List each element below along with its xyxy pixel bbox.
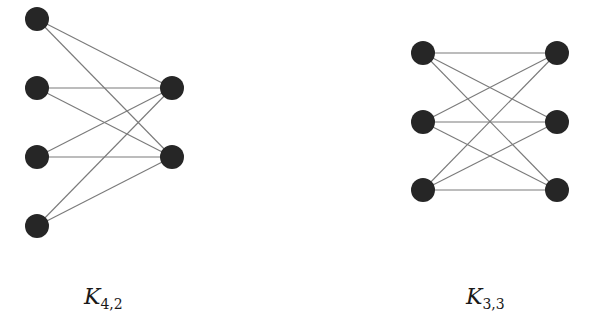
edges-layer	[37, 19, 557, 226]
vertex	[545, 41, 569, 65]
vertex	[160, 145, 184, 169]
edge	[37, 19, 172, 88]
graph-subscript: 3,3	[482, 296, 504, 312]
vertex	[411, 110, 435, 134]
graph-subscript: 4,2	[100, 296, 122, 312]
graph-name: K	[466, 284, 482, 309]
graph-label-k42: K4,2	[84, 284, 123, 312]
graph-name: K	[84, 284, 100, 309]
bipartite-graphs-svg	[0, 0, 594, 318]
vertex	[411, 178, 435, 202]
vertex	[25, 145, 49, 169]
vertex	[25, 76, 49, 100]
vertex	[545, 110, 569, 134]
vertex	[545, 178, 569, 202]
vertex	[160, 76, 184, 100]
diagram-canvas: K4,2 K3,3	[0, 0, 594, 318]
graph-label-k33: K3,3	[466, 284, 505, 312]
vertex	[411, 41, 435, 65]
vertex	[25, 214, 49, 238]
edge	[37, 157, 172, 226]
vertex	[25, 7, 49, 31]
